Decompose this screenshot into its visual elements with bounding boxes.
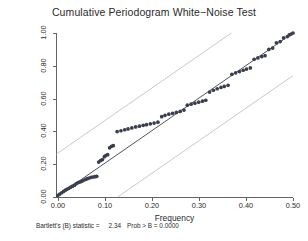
data-point	[260, 55, 264, 59]
data-point	[197, 100, 201, 104]
data-point	[252, 57, 256, 61]
data-point	[115, 130, 119, 134]
data-point	[130, 126, 134, 130]
data-point	[271, 46, 275, 50]
data-point	[119, 129, 123, 133]
data-point	[145, 123, 149, 127]
data-point	[141, 123, 145, 127]
data-point	[134, 125, 138, 129]
data-point	[204, 98, 208, 102]
prob-value: 0.0000	[159, 222, 179, 229]
data-point	[234, 71, 238, 75]
data-point	[189, 102, 193, 106]
data-point	[230, 72, 234, 76]
data-point	[212, 88, 216, 92]
data-point	[282, 36, 286, 40]
bartlett-statistic-footnote: Bartlett's (B) statistic =2.34Prob > B =…	[36, 222, 179, 229]
data-point	[160, 115, 164, 119]
data-point	[178, 110, 182, 114]
data-point	[208, 90, 212, 94]
data-point	[263, 54, 267, 58]
data-point	[248, 66, 252, 70]
data-point	[167, 112, 171, 116]
data-point	[256, 56, 260, 60]
data-point	[123, 128, 127, 132]
data-point	[171, 112, 175, 116]
data-point	[238, 70, 242, 74]
data-point	[219, 86, 223, 90]
data-point	[267, 48, 271, 52]
statistic-value: 2.34	[109, 222, 121, 229]
data-point	[126, 127, 130, 131]
data-point	[193, 101, 197, 105]
data-point	[156, 120, 160, 124]
data-point	[226, 83, 230, 87]
data-point	[215, 87, 219, 91]
data-point	[278, 40, 282, 44]
data-point	[163, 113, 167, 117]
prob-label: Prob > B =	[127, 222, 158, 229]
data-point	[245, 67, 249, 71]
data-point	[182, 108, 186, 112]
statistic-label: Bartlett's (B) statistic =	[36, 222, 100, 229]
chart-plot-layer	[0, 0, 308, 241]
data-point	[275, 41, 279, 45]
data-point	[148, 122, 152, 126]
data-point	[241, 68, 245, 72]
data-point	[222, 85, 226, 89]
data-point	[185, 103, 189, 107]
data-point	[95, 174, 99, 178]
data-point	[152, 121, 156, 125]
data-point	[201, 99, 205, 103]
data-point	[175, 111, 179, 115]
data-point	[291, 31, 295, 35]
chart-canvas: Cumulative Periodogram White−Noise Test …	[0, 0, 308, 241]
data-point	[106, 153, 110, 157]
data-point	[112, 144, 116, 148]
data-point	[138, 124, 142, 128]
